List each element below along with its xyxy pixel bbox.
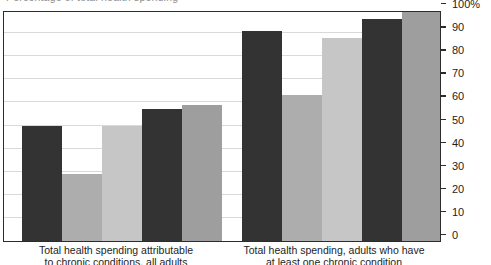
y-tick-mark-70 [441, 72, 446, 73]
y-tick-mark-30 [441, 165, 446, 166]
bar-g0-s4[interactable] [182, 105, 222, 241]
bar-g0-s3[interactable] [142, 109, 182, 241]
y-tick-60: 60 [441, 89, 491, 103]
y-tick-label-50: 50 [452, 113, 464, 127]
y-axis: 100%9080706050403020100 [441, 11, 491, 242]
bar-g1-s1[interactable] [282, 95, 322, 241]
y-tick-label-10: 10 [452, 205, 464, 219]
y-tick-mark-60 [441, 95, 446, 96]
y-tick-mark-100 [441, 3, 446, 4]
y-tick-label-100: 100% [452, 0, 480, 11]
x-axis-category-label-0: Total health spending attributableto chr… [4, 245, 228, 265]
y-tick-mark-0 [441, 234, 446, 235]
y-tick-label-0: 0 [452, 228, 458, 242]
y-tick-mark-80 [441, 49, 446, 50]
y-tick-label-70: 70 [452, 66, 464, 80]
x-axis-category-0-line-0: Total health spending attributable [4, 245, 228, 257]
y-tick-mark-50 [441, 119, 446, 120]
chart-figure: Percentage of total health spending 100%… [0, 0, 491, 265]
plot-area [3, 11, 441, 242]
x-axis-category-1-line-0: Total health spending, adults who have [222, 245, 446, 257]
bar-g1-s2[interactable] [322, 38, 362, 241]
y-tick-mark-20 [441, 188, 446, 189]
x-axis-category-label-1: Total health spending, adults who haveat… [222, 245, 446, 265]
bar-g1-s4[interactable] [402, 12, 441, 241]
y-tick-mark-40 [441, 142, 446, 143]
y-tick-label-80: 80 [452, 43, 464, 57]
bar-g0-s1[interactable] [62, 174, 102, 241]
y-tick-90: 90 [441, 20, 491, 34]
y-tick-100: 100% [441, 0, 491, 11]
y-tick-40: 40 [441, 136, 491, 150]
y-tick-label-40: 40 [452, 136, 464, 150]
x-axis-category-1-line-1: at least one chronic condition [222, 257, 446, 265]
y-tick-label-90: 90 [452, 20, 464, 34]
y-tick-30: 30 [441, 159, 491, 173]
y-tick-mark-10 [441, 211, 446, 212]
bar-g0-s0[interactable] [22, 126, 62, 242]
y-tick-20: 20 [441, 182, 491, 196]
bar-g1-s3[interactable] [362, 19, 402, 241]
bars-layer [4, 12, 440, 241]
y-tick-80: 80 [441, 43, 491, 57]
y-tick-label-60: 60 [452, 89, 464, 103]
bar-g1-s0[interactable] [242, 31, 282, 241]
y-tick-label-30: 30 [452, 159, 464, 173]
y-tick-0: 0 [441, 228, 491, 242]
y-tick-70: 70 [441, 66, 491, 80]
y-tick-50: 50 [441, 113, 491, 127]
y-tick-label-20: 20 [452, 182, 464, 196]
y-tick-mark-90 [441, 26, 446, 27]
x-axis-category-0-line-1: to chronic conditions, all adults [4, 257, 228, 265]
y-tick-10: 10 [441, 205, 491, 219]
bar-g0-s2[interactable] [102, 126, 142, 242]
clipped-header-text: Percentage of total health spending [6, 0, 326, 4]
